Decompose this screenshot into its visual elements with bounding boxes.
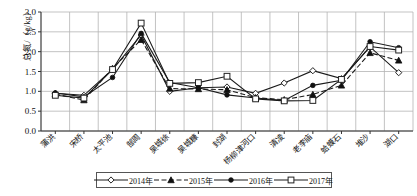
data-point (253, 96, 259, 102)
x-tick-label: 太平池 (90, 131, 114, 155)
data-point (310, 98, 316, 104)
data-point (281, 98, 287, 104)
legend-item-2015年[interactable]: 2015年 (154, 174, 214, 186)
data-point (196, 85, 201, 90)
legend-label: 2015年 (188, 175, 214, 186)
y-axis-ticks: 0.00.51.01.52.02.53.0 (25, 7, 41, 136)
legend-symbol-filled-circle (214, 174, 248, 186)
y-tick-label: 3.0 (25, 7, 37, 17)
y-tick-label: 2.0 (25, 47, 37, 57)
legend-symbol-open-square (274, 174, 308, 186)
data-point (311, 83, 316, 88)
legend-label: 2014年 (128, 175, 154, 186)
legend-item-2016年[interactable]: 2016年 (214, 174, 274, 186)
data-point (396, 47, 402, 53)
chart-figure: 总氮/（g/kg） 0.00.51.01.52.02.53.0蒲洪宋桥太平池郜周… (0, 0, 417, 196)
x-tick-label: 老李庙 (290, 131, 314, 155)
data-point (225, 93, 230, 98)
x-tick-label: 蒲洪 (38, 131, 56, 149)
x-tick-label: 杨柳津河口 (222, 131, 257, 166)
legend-item-2014年[interactable]: 2014年 (94, 174, 154, 186)
data-point (224, 73, 230, 79)
data-point (110, 75, 115, 80)
data-point (167, 81, 173, 87)
x-tick-label: 清凌 (267, 131, 285, 149)
data-point (339, 77, 345, 83)
x-tick-label: 湖口 (382, 132, 400, 150)
legend-marker (288, 177, 294, 183)
legend-item-2017年[interactable]: 2017年 (274, 174, 334, 186)
x-tick-label: 宋桥 (67, 131, 85, 149)
data-point (81, 95, 87, 101)
legend-symbol-filled-triangle (154, 174, 188, 186)
x-axis-ticks: 蒲洪宋桥太平池郜周吴城徐吴城糠封湖杨柳津河口清凌老李庙蛤蟆石堆沙湖口 (38, 131, 400, 167)
data-point (195, 80, 201, 86)
data-point (367, 44, 373, 50)
legend-label: 2017年 (308, 175, 334, 186)
line-chart-plot: 0.00.51.01.52.02.53.0蒲洪宋桥太平池郜周吴城徐吴城糠封湖杨柳… (0, 0, 417, 196)
data-point (110, 67, 116, 73)
x-tick-label: 吴城糠 (176, 131, 200, 155)
legend-symbol-open-diamond (94, 174, 128, 186)
x-tick-label: 封湖 (210, 131, 228, 149)
x-tick-label: 堆沙 (353, 131, 371, 149)
data-point (52, 92, 58, 98)
y-tick-label: 1.0 (25, 86, 37, 96)
chart-legend: 2014年2015年2016年2017年 (96, 172, 332, 188)
y-tick-label: 2.5 (25, 27, 37, 37)
y-tick-label: 0.5 (25, 106, 37, 116)
x-tick-label: 吴城徐 (147, 131, 171, 155)
x-tick-label: 蛤蟆石 (319, 131, 343, 155)
legend-label: 2016年 (248, 175, 274, 186)
legend-marker (229, 178, 234, 183)
x-tick-label: 郜周 (124, 131, 142, 149)
data-point (139, 31, 144, 36)
y-tick-label: 0.0 (25, 126, 37, 136)
legend-marker (108, 177, 114, 183)
data-point (138, 20, 144, 26)
y-tick-label: 1.5 (25, 67, 37, 77)
